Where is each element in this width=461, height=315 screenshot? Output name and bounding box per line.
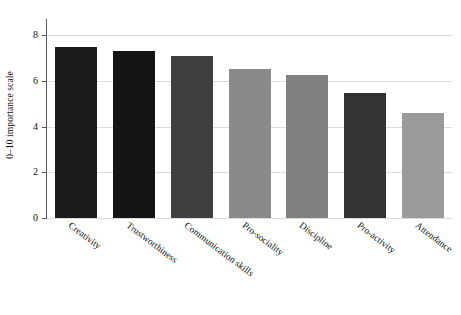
y-tick-label: 6 bbox=[33, 76, 38, 86]
x-axis-label: Creativity bbox=[66, 221, 102, 251]
y-tick-label: 4 bbox=[33, 122, 38, 132]
bar bbox=[229, 69, 271, 218]
y-tick-mark bbox=[42, 172, 46, 173]
bar bbox=[113, 51, 155, 218]
x-axis-label: Attendance bbox=[413, 221, 453, 255]
bar bbox=[55, 47, 97, 218]
y-tick-label: 0 bbox=[33, 213, 38, 223]
y-tick-mark bbox=[42, 35, 46, 36]
bar bbox=[344, 93, 386, 218]
y-tick-mark bbox=[42, 127, 46, 128]
y-tick-label: 8 bbox=[33, 30, 38, 40]
y-tick-mark bbox=[42, 218, 46, 219]
bar bbox=[286, 75, 328, 218]
y-tick-label: 2 bbox=[33, 167, 38, 177]
bars-group bbox=[47, 28, 452, 219]
x-axis-labels: CreativityTrustworthinessCommunication s… bbox=[47, 221, 452, 315]
gridline bbox=[47, 218, 452, 219]
x-axis-label: Discipline bbox=[298, 221, 335, 252]
bar bbox=[402, 113, 444, 218]
bar-chart: 0–10 importance scale 02468 CreativityTr… bbox=[0, 0, 461, 315]
plot-area: 02468 bbox=[47, 28, 452, 219]
x-axis-label: Pro-sociality bbox=[240, 221, 285, 258]
y-axis-title: 0–10 importance scale bbox=[0, 0, 20, 230]
x-axis-label: Pro-activity bbox=[355, 221, 397, 256]
y-axis-title-text: 0–10 importance scale bbox=[5, 71, 15, 159]
bar bbox=[171, 56, 213, 218]
x-axis-label: Trustworthiness bbox=[124, 221, 178, 265]
y-tick-mark bbox=[42, 81, 46, 82]
